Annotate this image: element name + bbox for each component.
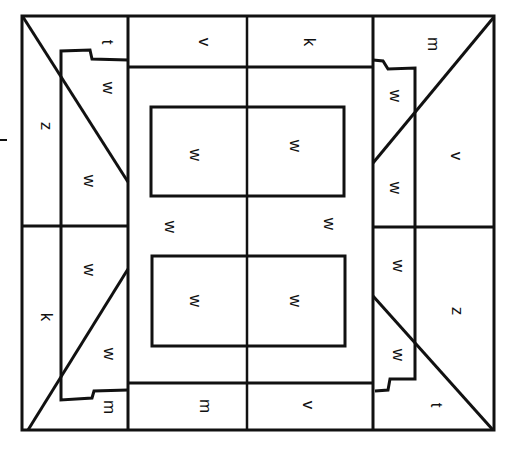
region-label-upper-rect-right: w [281,131,311,161]
region-label-right-lower-inner-top: w [384,251,414,281]
outer-border [22,16,494,430]
region-label-left-upper-inner-top: w [94,73,124,103]
region-label-br-corner: t [422,390,452,420]
region-label-tl-corner: t [93,27,123,57]
region-label-right-lower-inner-bottom: w [384,340,414,370]
region-label-left-upper-inner-bottom: w [75,166,105,196]
region-label-bottom-right-band: v [294,390,324,420]
region-label-center-left: w [156,212,186,242]
region-label-center-right: w [315,209,345,239]
region-label-left-lower-inner-top: w [75,255,105,285]
region-label-bottom-left-band: m [191,391,221,421]
region-label-top-right-band: k [295,27,325,57]
region-label-right-upper-inner-bottom: w [381,173,411,203]
region-label-upper-rect-left: w [181,140,211,170]
region-label-bl-corner: m [95,392,125,422]
region-label-tr-corner: m [419,29,449,59]
region-label-right-lower-outer: z [443,296,473,326]
region-label-lower-rect-left: w [181,286,211,316]
region-label-left-upper-outer: z [32,111,62,141]
region-label-left-lower-inner-bottom: w [95,339,125,369]
region-label-right-upper-outer: v [442,141,472,171]
region-label-right-upper-inner-top: w [381,81,411,111]
region-label-top-left-band: v [190,27,220,57]
region-label-lower-rect-right: w [281,286,311,316]
region-label-left-lower-outer: k [32,302,62,332]
